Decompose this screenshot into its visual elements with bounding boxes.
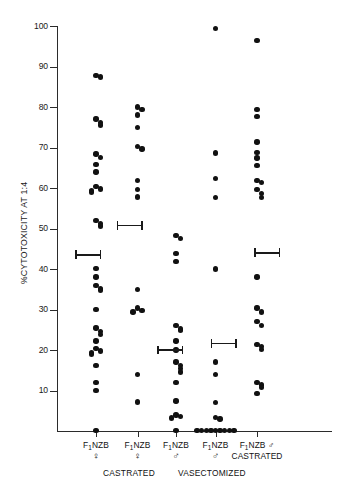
data-point: [89, 189, 94, 194]
data-point: [173, 251, 178, 256]
generation-subscript: 1: [88, 444, 92, 451]
data-point: [98, 348, 103, 353]
data-point: [254, 150, 259, 155]
mean-error-bar: [117, 225, 143, 227]
mean-error-bar: [75, 254, 101, 256]
data-point: [135, 125, 140, 130]
data-point: [213, 150, 218, 155]
data-point: [93, 162, 98, 167]
data-point: [93, 169, 98, 174]
data-point: [139, 107, 144, 112]
data-point: [93, 380, 98, 385]
y-tick-label: 90: [14, 61, 48, 71]
data-point: [135, 178, 140, 183]
data-point: [135, 112, 140, 117]
y-tick-mark: [50, 26, 57, 27]
data-point: [135, 372, 140, 377]
data-point: [213, 26, 218, 31]
cytotoxicity-dot-plot-figure: %CYTOTOXICITY AT 1:4 1009080706050403020…: [0, 0, 340, 484]
y-tick-mark: [50, 391, 57, 392]
data-point: [259, 385, 264, 390]
data-point: [93, 428, 98, 433]
data-point: [93, 274, 98, 279]
data-point: [259, 180, 264, 185]
data-point: [98, 74, 103, 79]
x-tick-mark: [257, 431, 258, 437]
data-point: [93, 363, 98, 368]
y-tick-label: 30: [14, 304, 48, 314]
data-point: [93, 388, 98, 393]
y-tick-label: 10: [14, 385, 48, 395]
x-tick-mark: [138, 431, 139, 437]
data-point: [178, 369, 183, 374]
data-point: [173, 398, 178, 403]
y-tick-mark: [50, 148, 57, 149]
data-point: [213, 372, 218, 377]
data-point: [169, 415, 174, 420]
data-point: [259, 309, 264, 314]
data-point: [135, 194, 140, 199]
data-point: [130, 309, 135, 314]
y-axis-line: [57, 26, 58, 432]
y-tick-label: 100: [14, 21, 48, 31]
y-tick-label: 80: [14, 102, 48, 112]
data-point: [254, 391, 259, 396]
data-point: [178, 328, 183, 333]
data-point: [213, 176, 218, 181]
data-point: [254, 107, 259, 112]
x-group-treatment-castrated: CASTRATED: [103, 468, 155, 478]
x-group-strain: F1NZB ♂: [222, 440, 292, 450]
y-tick-mark: [50, 269, 57, 270]
y-tick-mark: [50, 229, 57, 230]
generation-subscript: 1: [130, 444, 134, 451]
data-point: [98, 122, 103, 127]
y-axis-title: %CYTOTOXICITY AT 1:4: [19, 143, 29, 323]
mean-error-bar: [254, 252, 280, 254]
generation-subscript: 1: [245, 444, 249, 451]
y-tick-label: 40: [14, 264, 48, 274]
data-point: [139, 146, 144, 151]
plot-area: %CYTOTOXICITY AT 1:4 1009080706050403020…: [0, 0, 340, 484]
generation-subscript: 1: [208, 444, 212, 451]
data-point: [139, 308, 144, 313]
data-point: [173, 338, 178, 343]
data-point: [173, 380, 178, 385]
y-tick-mark: [50, 67, 57, 68]
data-point: [254, 274, 259, 279]
data-point: [98, 287, 103, 292]
data-point: [254, 38, 259, 43]
data-point: [98, 155, 103, 160]
y-tick-label: 60: [14, 183, 48, 193]
y-tick-label: 70: [14, 142, 48, 152]
data-point: [254, 139, 259, 144]
data-point: [217, 416, 222, 421]
mean-error-bar: [157, 349, 183, 351]
data-point: [173, 428, 178, 433]
data-point: [213, 359, 218, 364]
data-point: [98, 186, 103, 191]
data-point: [135, 399, 140, 404]
x-group-label-5: F1NZB ♂CASTRATED: [222, 440, 292, 461]
data-point: [213, 400, 218, 405]
data-point: [93, 266, 98, 271]
data-point: [178, 236, 183, 241]
mean-error-bar: [211, 343, 237, 345]
data-point: [93, 307, 98, 312]
data-point: [89, 351, 94, 356]
data-point: [135, 287, 140, 292]
data-point: [213, 266, 218, 271]
y-tick-label: 50: [14, 223, 48, 233]
data-point: [98, 223, 103, 228]
data-point: [259, 347, 264, 352]
data-point: [98, 332, 103, 337]
y-tick-mark: [50, 350, 57, 351]
data-point: [178, 414, 183, 419]
x-group-treatment-vasectomized: VASECTOMIZED: [178, 468, 246, 478]
data-point: [213, 195, 218, 200]
data-point: [93, 338, 98, 343]
data-point: [204, 428, 209, 433]
data-point: [259, 323, 264, 328]
y-tick-mark: [50, 188, 57, 189]
data-point: [259, 195, 264, 200]
x-group-sex-or-treatment: CASTRATED: [222, 451, 292, 461]
